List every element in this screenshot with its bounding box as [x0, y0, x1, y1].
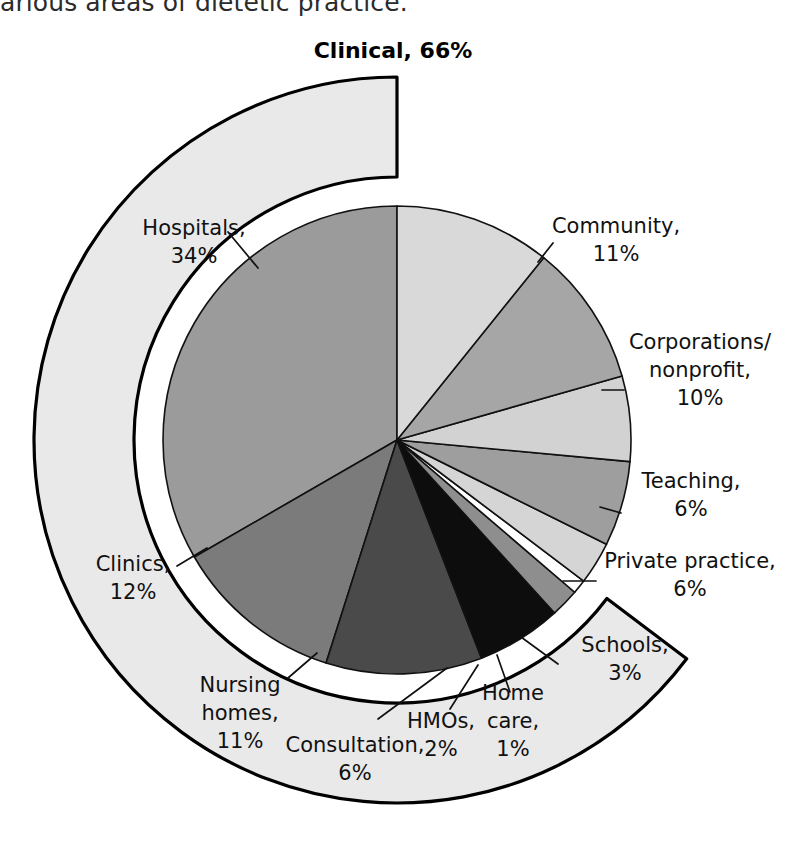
label-nursing-homes-line3: 11% — [217, 729, 264, 753]
label-community-line2: 11% — [593, 242, 640, 266]
label-private-practice-line1: Private practice, — [604, 549, 775, 573]
label-nursing-homes-line1: Nursing — [199, 673, 280, 697]
figure-root: arious areas of dietetic practice. — [0, 0, 785, 852]
leader-nursing-homes — [288, 653, 317, 678]
label-corporations-line1: Corporations/ — [629, 330, 772, 354]
pie-wedges — [163, 206, 631, 674]
label-schools-line2: 3% — [608, 661, 641, 685]
label-corporations-line3: 10% — [677, 386, 724, 410]
label-home-care-line3: 1% — [496, 737, 529, 761]
label-schools-line1: Schools, — [581, 633, 668, 657]
label-home-care-line2: care, — [487, 709, 539, 733]
label-private-practice-line2: 6% — [673, 577, 706, 601]
label-nursing-homes-line2: homes, — [201, 701, 278, 725]
label-hospitals-line1: Hospitals, — [142, 216, 245, 240]
label-clinics-line1: Clinics, — [96, 552, 171, 576]
label-community-line1: Community, — [552, 214, 680, 238]
label-corporations-line2: nonprofit, — [649, 358, 751, 382]
label-hmos-line2: 2% — [424, 737, 457, 761]
label-clinics-line2: 12% — [110, 580, 157, 604]
label-teaching-line1: Teaching, — [640, 469, 740, 493]
label-consultation-line2: 6% — [338, 761, 371, 785]
label-hospitals-line2: 34% — [171, 244, 218, 268]
label-home-care-line1: Home — [482, 681, 544, 705]
label-hmos-line1: HMOs, — [407, 709, 475, 733]
pie-chart: Clinical, 66% Hospitals, 34% Community, … — [0, 0, 785, 852]
label-clinical: Clinical, 66% — [314, 38, 473, 63]
label-teaching-line2: 6% — [674, 497, 707, 521]
label-consultation-line1: Consultation, — [286, 733, 425, 757]
